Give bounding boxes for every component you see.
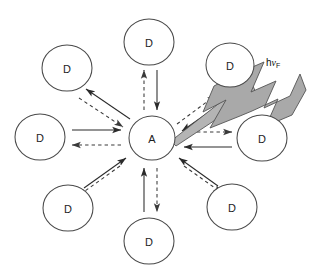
energy-transfer-figure: DDDDDDDDA hνF — [0, 0, 311, 268]
donor-right-label: D — [258, 133, 266, 145]
donor-upper-left-label: D — [63, 63, 71, 75]
donor-upper-right-label: D — [226, 60, 234, 72]
donor-upper-left: D — [42, 45, 92, 91]
donor-left: D — [15, 114, 65, 160]
donor-top: D — [124, 19, 174, 65]
donor-lower-right-label: D — [228, 202, 236, 214]
donor-upper-right: D — [206, 43, 254, 87]
donor-right: D — [237, 115, 287, 161]
acceptor-node-label: A — [148, 133, 156, 145]
donor-bottom-label: D — [145, 236, 153, 248]
donor-bottom: D — [124, 218, 174, 264]
donor-left-label: D — [36, 132, 44, 144]
acceptor-node: A — [129, 116, 175, 160]
donor-lower-left: D — [43, 185, 93, 231]
donor-lower-right: D — [207, 184, 257, 230]
donor-top-label: D — [145, 37, 153, 49]
diagram-canvas: DDDDDDDDA hνF — [0, 0, 311, 268]
donor-lower-left-label: D — [64, 203, 72, 215]
